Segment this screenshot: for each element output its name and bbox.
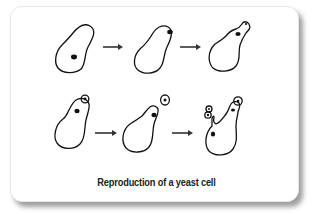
bud-nucleus bbox=[164, 99, 167, 102]
arrow-1 bbox=[103, 44, 123, 50]
bud-nucleus bbox=[245, 23, 247, 25]
diagram-caption: Reproduction of a yeast cell bbox=[19, 176, 294, 188]
nucleus bbox=[151, 113, 156, 117]
nucleus bbox=[231, 108, 235, 111]
bud-nucleus bbox=[84, 98, 87, 101]
arrow-2 bbox=[180, 44, 201, 50]
stage-1-cell bbox=[56, 25, 94, 73]
bud-nucleus bbox=[208, 108, 210, 110]
bud-nucleus bbox=[237, 100, 240, 103]
stage-6-cell bbox=[205, 97, 242, 155]
bud-nucleus bbox=[207, 114, 209, 116]
arrow-4 bbox=[172, 130, 193, 136]
stage-2-cell bbox=[134, 26, 172, 73]
nucleus bbox=[74, 109, 79, 113]
stage-3-cell bbox=[209, 22, 250, 71]
nucleus bbox=[167, 30, 173, 34]
stage-4-cell bbox=[55, 95, 89, 148]
nucleus bbox=[71, 55, 77, 60]
nucleus bbox=[235, 32, 240, 36]
arrow-3 bbox=[95, 130, 117, 136]
stage-5-cell bbox=[123, 95, 169, 152]
nucleus bbox=[211, 131, 215, 136]
